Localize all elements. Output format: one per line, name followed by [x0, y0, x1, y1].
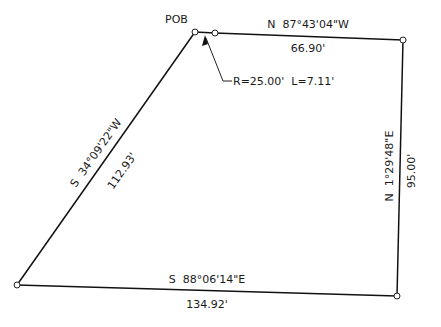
east-distance: 95.00'	[405, 154, 418, 189]
curve-label: R=25.00' L=7.11'	[233, 75, 334, 88]
north-distance: 66.90'	[291, 42, 326, 55]
south-distance: 134.92'	[186, 298, 228, 311]
corner-point-pob	[192, 29, 198, 35]
survey-plat-diagram: POB R=25.00' L=7.11' N 87°43'04"W 66.90'…	[0, 0, 441, 327]
boundary-south	[17, 285, 397, 296]
west-distance: 112.93'	[105, 150, 140, 191]
north-bearing: N 87°43'04"W	[267, 18, 349, 31]
boundary-east	[397, 40, 403, 296]
south-bearing: S 88°06'14"E	[169, 273, 246, 286]
boundary-north	[215, 33, 403, 40]
east-bearing: N 1°29'48"E	[383, 131, 396, 202]
corner-point-ne	[400, 37, 406, 43]
pob-label: POB	[165, 13, 188, 26]
curve-leader-line	[206, 38, 232, 81]
corner-point-se	[394, 293, 400, 299]
corner-point-sw	[14, 282, 20, 288]
boundary-west	[17, 32, 195, 285]
corner-point-curve-end	[212, 30, 218, 36]
